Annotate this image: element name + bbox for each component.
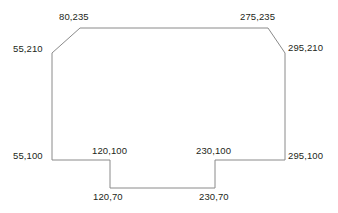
vertex-label-275-235: 275,235 xyxy=(240,11,275,22)
polygon-diagram: 80,235 275,235 295,210 295,100 230,100 2… xyxy=(0,0,338,213)
vertex-label-295-100: 295,100 xyxy=(288,150,323,161)
vertex-label-55-100: 55,100 xyxy=(13,150,43,161)
vertex-label-120-100: 120,100 xyxy=(92,145,127,156)
vertex-label-230-70: 230,70 xyxy=(199,191,229,202)
vertex-label-55-210: 55,210 xyxy=(13,43,43,54)
polygon-shape xyxy=(0,0,338,213)
vertex-label-80-235: 80,235 xyxy=(59,11,89,22)
polygon-outline xyxy=(52,28,285,188)
vertex-label-295-210: 295,210 xyxy=(288,42,323,53)
vertex-label-230-100: 230,100 xyxy=(196,145,231,156)
vertex-label-120-70: 120,70 xyxy=(93,191,123,202)
